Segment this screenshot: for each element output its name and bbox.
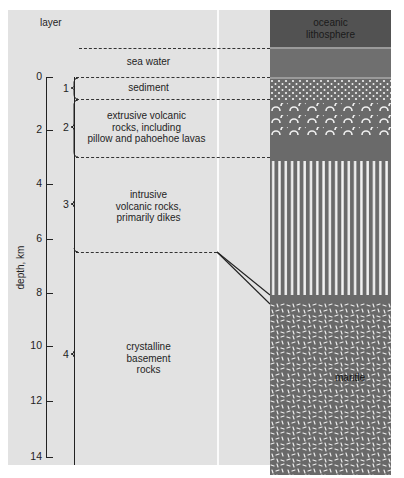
layer-name-sea-water: sea water bbox=[80, 56, 217, 68]
layer-name-sediment: sediment bbox=[80, 82, 217, 94]
layer-number: 4 bbox=[63, 348, 69, 360]
layer-name-crystalline: crystalline basement rocks bbox=[80, 341, 217, 376]
oceanic-lithosphere-label: oceanic lithosphere bbox=[270, 17, 391, 40]
layer-number: 1 bbox=[63, 82, 69, 94]
layer-number: 2 bbox=[63, 121, 69, 133]
layer-name-intrusive: intrusive volcanic rocks, primarily dike… bbox=[80, 189, 217, 224]
layer-name-extrusive: extrusive volcanic rocks, including pill… bbox=[76, 110, 217, 145]
mantle-label: mantle bbox=[320, 372, 380, 384]
sea-water-band bbox=[270, 49, 391, 77]
rock-pattern bbox=[270, 79, 391, 475]
lithosphere-column: oceanic lithosphere mantle bbox=[270, 10, 391, 465]
layer-number: 3 bbox=[63, 198, 69, 210]
